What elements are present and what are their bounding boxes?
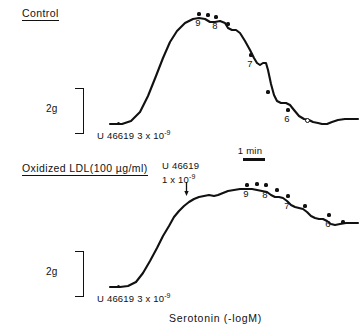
dose-marker-layer: 98769876 [0, 0, 364, 331]
dose-marker-dot [303, 204, 306, 207]
dose-marker-dot [214, 15, 217, 18]
dose-marker-dot [286, 108, 289, 111]
dose-marker-label: 8 [210, 21, 220, 31]
dose-marker-dot [255, 182, 258, 185]
dose-marker-label: 6 [282, 114, 292, 124]
dose-marker-label: 7 [282, 201, 292, 211]
dose-marker-label: 7 [245, 59, 255, 69]
dose-marker-dot [206, 13, 209, 16]
dose-marker-dot [249, 53, 252, 56]
end-dot-marker [341, 220, 344, 223]
dose-marker-label: 9 [193, 18, 203, 28]
dose-marker-label: 6 [323, 219, 333, 229]
dose-marker-dot [286, 194, 289, 197]
dose-marker-dot [197, 12, 200, 15]
end-open-circle-marker [305, 118, 310, 123]
dose-marker-dot [245, 183, 248, 186]
dose-marker-dot [275, 188, 278, 191]
dose-marker-label: 9 [241, 189, 251, 199]
dose-marker-label: 8 [260, 190, 270, 200]
figure-root: Control 2g U 46619 3 x 10-9 1 min Oxidiz… [0, 0, 364, 331]
dose-marker-dot [327, 213, 330, 216]
dose-marker-dot [226, 22, 229, 25]
dose-marker-dot [264, 183, 267, 186]
dose-marker-dot [266, 90, 269, 93]
